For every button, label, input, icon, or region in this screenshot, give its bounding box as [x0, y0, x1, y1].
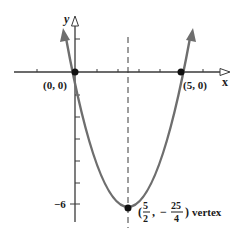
point-origin [72, 69, 79, 76]
chart-canvas: y x (0, 0) (5, 0) −6 ( 5 2 , − 25 4 ) ve… [0, 0, 241, 230]
svg-text:5: 5 [143, 200, 148, 211]
point-5-0 [178, 69, 185, 76]
vertex-label: ( 5 2 , − 25 4 ) vertex [138, 200, 222, 224]
right-intercept-label: (5, 0) [183, 79, 207, 92]
x-axis [14, 69, 230, 76]
y-axis [70, 16, 80, 222]
right-arrow-icon [186, 28, 196, 42]
svg-text:−: − [160, 205, 167, 219]
y-axis-label: y [62, 12, 70, 26]
y-axis-arrow-icon [72, 16, 79, 26]
svg-text:): ) [185, 205, 189, 219]
origin-label: (0, 0) [43, 79, 67, 92]
svg-text:25: 25 [171, 200, 181, 211]
y-tick-label: −6 [54, 198, 66, 210]
point-vertex [125, 205, 132, 212]
left-arrow-icon [60, 28, 70, 42]
parabola-chart: y x (0, 0) (5, 0) −6 ( 5 2 , − 25 4 ) ve… [0, 0, 241, 230]
x-axis-label: x [222, 75, 228, 89]
svg-text:(: ( [138, 205, 142, 219]
svg-text:4: 4 [174, 213, 179, 224]
svg-text:,: , [152, 205, 155, 219]
svg-text:vertex: vertex [192, 206, 222, 218]
svg-text:2: 2 [143, 213, 148, 224]
